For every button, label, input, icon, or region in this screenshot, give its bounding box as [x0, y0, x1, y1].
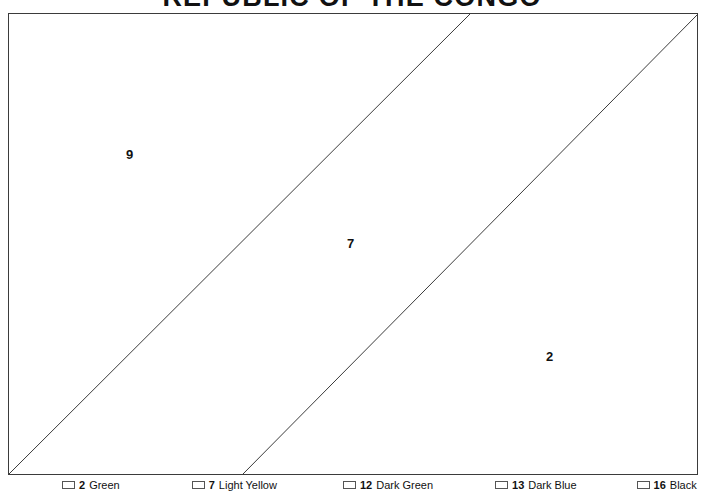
page-title: REPUBLIC OF THE CONGO	[0, 0, 704, 12]
flag-diagram: 9 7 2	[8, 13, 698, 475]
legend-item-number: 2	[79, 479, 85, 491]
legend-item-number: 16	[654, 479, 666, 491]
region-number-upper-hoist: 9	[126, 148, 133, 162]
legend-item: 2 Green	[62, 479, 120, 491]
region-number-lower-fly: 2	[546, 350, 553, 364]
legend-item: 12 Dark Green	[343, 479, 433, 491]
legend-item-label: Green	[89, 479, 120, 491]
legend-item: 16 Black	[637, 479, 697, 491]
legend-swatch-icon	[495, 481, 508, 489]
legend-item-label: Black	[670, 479, 697, 491]
legend-item-label: Dark Green	[376, 479, 433, 491]
legend-item-number: 12	[360, 479, 372, 491]
legend-swatch-icon	[637, 481, 650, 489]
region-number-diagonal-band: 7	[347, 237, 354, 251]
legend-swatch-icon	[343, 481, 356, 489]
legend-item: 7 Light Yellow	[192, 479, 277, 491]
legend-item-number: 7	[209, 479, 215, 491]
legend-swatch-icon	[192, 481, 205, 489]
legend-swatch-icon	[62, 481, 75, 489]
legend-item-label: Dark Blue	[528, 479, 576, 491]
legend-item-number: 13	[512, 479, 524, 491]
legend-item: 13 Dark Blue	[495, 479, 577, 491]
diagonal-lower-line	[243, 14, 697, 474]
diagonal-upper-line	[9, 14, 470, 474]
color-legend: 2 Green 7 Light Yellow 12 Dark Green 13 …	[0, 479, 704, 495]
legend-item-label: Light Yellow	[219, 479, 277, 491]
